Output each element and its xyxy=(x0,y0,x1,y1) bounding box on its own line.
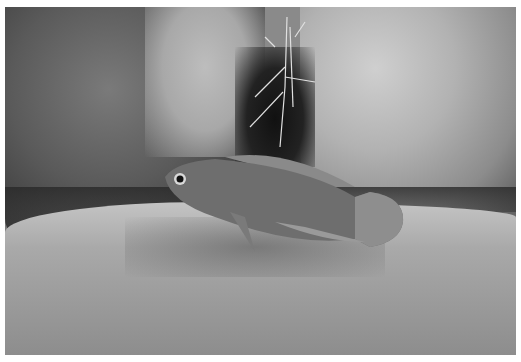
roots xyxy=(245,7,325,157)
fish xyxy=(155,147,405,257)
photograph xyxy=(5,7,516,355)
